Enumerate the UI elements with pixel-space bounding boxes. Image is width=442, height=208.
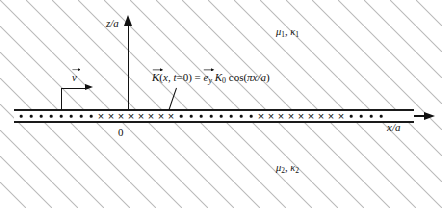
surface-current-formula: K(x, t=0) = ey K0 cos(πx/a)	[152, 71, 270, 85]
current-out-of-page-icon	[350, 115, 353, 118]
current-into-page-icon: ×	[288, 111, 294, 122]
current-into-page-icon: ×	[268, 111, 274, 122]
lower-region-label: μ2, κ2	[276, 162, 299, 175]
current-out-of-page-icon	[20, 115, 23, 118]
hatch-background	[0, 0, 442, 208]
current-into-page-icon: ×	[128, 111, 134, 122]
x-axis-arrowhead-icon	[424, 112, 435, 120]
current-out-of-page-icon	[220, 115, 223, 118]
current-into-page-icon: ×	[278, 111, 284, 122]
current-out-of-page-icon	[80, 115, 83, 118]
current-out-of-page-icon	[200, 115, 203, 118]
velocity-label: v	[72, 71, 77, 83]
current-into-page-icon: ×	[168, 111, 174, 122]
current-out-of-page-icon	[230, 115, 233, 118]
current-out-of-page-icon	[190, 115, 193, 118]
velocity-arrowhead-icon	[85, 84, 93, 90]
current-into-page-icon: ×	[138, 111, 144, 122]
current-into-page-icon: ×	[338, 111, 344, 122]
current-into-page-icon: ×	[318, 111, 324, 122]
figure-canvas: z/a x/a ××××××××××××××××× 0 v μ1, κ1 μ2,…	[0, 0, 442, 208]
current-out-of-page-icon	[90, 115, 93, 118]
current-out-of-page-icon	[240, 115, 243, 118]
current-out-of-page-icon	[250, 115, 253, 118]
current-out-of-page-icon	[360, 115, 363, 118]
current-into-page-icon: ×	[148, 111, 154, 122]
current-into-page-icon: ×	[308, 111, 314, 122]
z-axis-label: z/a	[106, 17, 119, 29]
current-sheet: ×××××××××××××××××	[14, 109, 414, 123]
upper-region-label: μ1, κ1	[276, 26, 299, 39]
current-out-of-page-icon	[180, 115, 183, 118]
current-out-of-page-icon	[40, 115, 43, 118]
current-out-of-page-icon	[370, 115, 373, 118]
current-out-of-page-icon	[50, 115, 53, 118]
current-into-page-icon: ×	[258, 111, 264, 122]
current-into-page-icon: ×	[328, 111, 334, 122]
z-axis-line	[128, 24, 129, 110]
velocity-bracket-vertical	[61, 88, 62, 110]
current-into-page-icon: ×	[98, 111, 104, 122]
velocity-bracket-horizontal	[61, 88, 87, 89]
z-axis-arrowhead-icon	[124, 15, 132, 26]
current-into-page-icon: ×	[108, 111, 114, 122]
current-into-page-icon: ×	[158, 111, 164, 122]
current-out-of-page-icon	[60, 115, 63, 118]
current-out-of-page-icon	[70, 115, 73, 118]
current-into-page-icon: ×	[298, 111, 304, 122]
current-out-of-page-icon	[380, 115, 383, 118]
velocity-symbol: v	[72, 71, 77, 83]
current-into-page-icon: ×	[118, 111, 124, 122]
current-out-of-page-icon	[210, 115, 213, 118]
origin-label: 0	[118, 126, 124, 138]
current-out-of-page-icon	[30, 115, 33, 118]
